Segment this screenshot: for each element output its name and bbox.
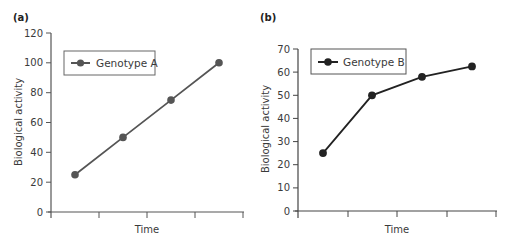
chart-panel-b: (b) 0 10 20 30 40 50 60 70 Tim [260,12,497,235]
y-tick-label: 30 [277,136,290,147]
x-ticks-b [348,211,496,217]
series-genotype-b [319,63,476,158]
y-tick-label: 120 [24,28,43,39]
y-tick-label: 0 [37,207,43,218]
y-tick-label: 100 [24,57,43,68]
data-point [418,73,426,81]
data-point [368,91,376,99]
y-ticks-a: 0 20 40 60 80 100 120 [24,28,51,218]
y-tick-label: 70 [277,44,290,55]
data-point [215,59,223,67]
x-axis-title-b: Time [384,224,409,235]
legend-marker-icon [77,59,84,66]
x-ticks-a [99,212,243,218]
data-point [119,134,127,142]
y-tick-label: 60 [277,67,290,78]
y-axis-title-a: Biological activity [13,78,24,166]
y-tick-label: 80 [30,87,43,98]
data-point [71,171,79,179]
y-tick-label: 60 [30,117,43,128]
legend-a: Genotype A [64,51,158,75]
panel-label-b: (b) [260,12,276,23]
x-axis-title-a: Time [134,224,159,235]
chart-panel-a: (a) 0 20 40 60 80 100 120 Time [13,12,244,235]
y-tick-label: 40 [277,113,290,124]
y-tick-label: 40 [30,147,43,158]
data-point [319,149,327,157]
y-ticks-b: 0 10 20 30 40 50 60 70 [277,44,298,217]
y-tick-label: 20 [277,159,290,170]
y-tick-label: 50 [277,90,290,101]
y-tick-label: 0 [284,206,290,217]
legend-label-a: Genotype A [96,57,158,69]
y-tick-label: 20 [30,177,43,188]
figure: (a) 0 20 40 60 80 100 120 Time [0,0,505,247]
data-point [468,63,476,71]
legend-marker-icon [324,58,332,66]
legend-b: Genotype B [311,49,406,74]
series-genotype-a [71,59,223,179]
y-tick-label: 10 [277,182,290,193]
data-point [167,96,175,104]
y-axis-title-b: Biological activity [260,85,271,173]
legend-label-b: Genotype B [343,56,405,68]
panel-label-a: (a) [13,12,29,23]
